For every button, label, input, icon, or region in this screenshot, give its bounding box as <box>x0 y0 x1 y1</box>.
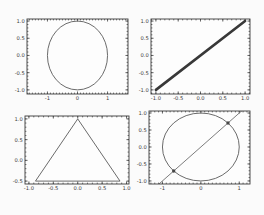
subplot-bottom-left: -1.0-0.50.00.51.01.00.50.0-0.5 <box>13 116 131 191</box>
x-tick-label: 0 <box>199 185 202 191</box>
y-tick-label: 0.0 <box>141 52 149 58</box>
y-tick-label: -1.0 <box>137 178 147 184</box>
y-tick-label: -0.5 <box>13 178 23 184</box>
x-tick-label: 1.0 <box>241 95 249 101</box>
x-tick-label: -0.5 <box>48 185 58 191</box>
y-tick-label: 0.5 <box>141 35 149 41</box>
x-tick-label: 0.5 <box>219 95 227 101</box>
y-tick-label: 0.0 <box>15 157 23 163</box>
y-tick-label: 0.5 <box>17 35 25 41</box>
figure-canvas: -1011.00.50.0-0.5-1.0-1.0-0.50.00.51.01.… <box>0 0 264 215</box>
y-tick-label: 1.0 <box>141 18 149 24</box>
y-tick-label: -0.5 <box>139 70 149 76</box>
axes-background <box>149 111 250 184</box>
x-tick-label: 1 <box>106 95 109 101</box>
x-tick-label: -1 <box>160 185 165 191</box>
y-tick-label: -0.5 <box>137 161 147 167</box>
y-tick-label: 1.0 <box>139 110 147 116</box>
x-tick-label: 0.0 <box>74 185 82 191</box>
x-tick-label: 1 <box>238 185 241 191</box>
x-tick-label: -1.0 <box>24 185 34 191</box>
y-tick-label: 0.0 <box>17 52 25 58</box>
y-tick-label: 1.0 <box>15 116 23 122</box>
matplotlib-figure: -1011.00.50.0-0.5-1.0-1.0-0.50.00.51.01.… <box>0 0 264 215</box>
subplot-top-right: -1.0-0.50.00.51.01.00.50.0-0.5-1.0 <box>139 18 250 101</box>
x-tick-label: -1.0 <box>151 95 161 101</box>
y-tick-label: 1.0 <box>17 18 25 24</box>
x-tick-label: -1 <box>45 95 50 101</box>
subplot-bottom-right: -1011.00.50.0-0.5-1.0 <box>137 103 251 191</box>
intersection-points <box>172 169 175 172</box>
subplot-top-left: -1011.00.50.0-0.5-1.0 <box>15 18 128 101</box>
y-tick-label: -1.0 <box>15 87 25 93</box>
x-tick-label: -0.5 <box>173 95 183 101</box>
intersection-points <box>226 121 229 124</box>
y-tick-label: 0.0 <box>139 144 147 150</box>
y-tick-label: 0.5 <box>139 127 147 133</box>
x-tick-label: 0.5 <box>98 185 106 191</box>
y-tick-label: -0.5 <box>15 70 25 76</box>
x-tick-label: 1.0 <box>122 185 130 191</box>
y-tick-label: -1.0 <box>139 87 149 93</box>
x-tick-label: 0 <box>76 95 79 101</box>
axes-background <box>27 19 128 94</box>
y-tick-label: 0.5 <box>15 137 23 143</box>
x-tick-label: 0.0 <box>196 95 204 101</box>
